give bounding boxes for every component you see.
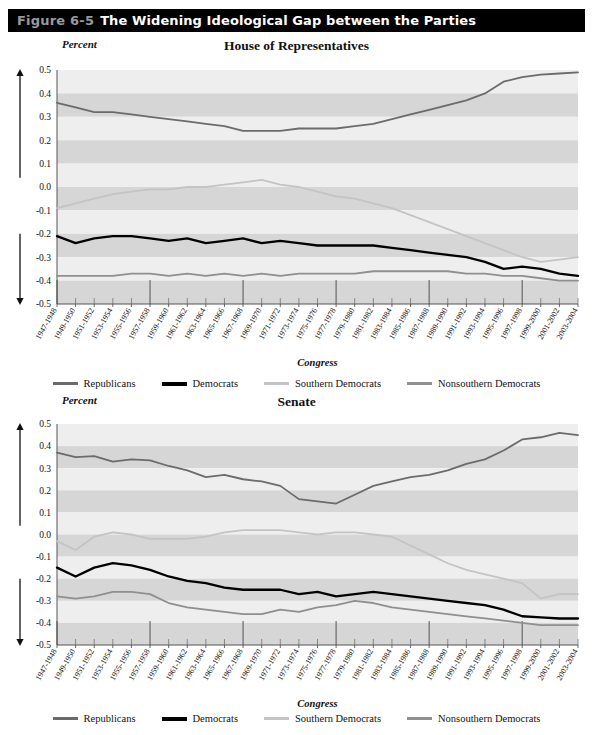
chart-panel-house: House of Representatives Percent 0.50.40… — [0, 36, 593, 396]
y-tick-label: 0.0 — [39, 182, 51, 192]
legend-item-republicans[interactable]: Republicans — [53, 713, 136, 724]
chart-panel-senate: Senate Percent 0.50.40.30.20.10.0-0.1-0.… — [0, 392, 593, 735]
legend-label: Republicans — [84, 378, 136, 389]
legend-item-democrats[interactable]: Democrats — [162, 713, 238, 724]
figure-title-bar: Figure 6-5 The Widening Ideological Gap … — [8, 9, 585, 32]
y-tick-label: 0.4 — [39, 89, 51, 99]
legend-label: Democrats — [193, 713, 238, 724]
y-tick-label: 0.1 — [39, 159, 51, 169]
legend-item-republicans[interactable]: Republicans — [53, 378, 136, 389]
y-tick-label: 0.3 — [39, 112, 51, 122]
y-tick-label: 0.0 — [39, 530, 51, 540]
legend-swatch-icon — [162, 382, 187, 386]
legend-swatch-icon — [264, 382, 289, 385]
legend-item-southern-democrats[interactable]: Southern Democrats — [264, 713, 381, 724]
y-tick-label: -0.5 — [36, 640, 51, 650]
legend-swatch-icon — [407, 717, 432, 720]
legend-item-democrats[interactable]: Democrats — [162, 378, 238, 389]
legend-house: RepublicansDemocratsSouthern DemocratsNo… — [0, 378, 593, 389]
legend-label: Democrats — [193, 378, 238, 389]
y-tick-label: 0.2 — [39, 486, 51, 496]
legend-item-southern-democrats[interactable]: Southern Democrats — [264, 378, 381, 389]
y-tick-label: -0.1 — [36, 552, 51, 562]
y-tick-label: 0.1 — [39, 508, 51, 518]
y-tick-label: -0.4 — [36, 618, 51, 628]
legend-item-nonsouthern-democrats[interactable]: Nonsouthern Democrats — [407, 713, 540, 724]
legend-senate: RepublicansDemocratsSouthern DemocratsNo… — [0, 713, 593, 724]
line-chart-house: 0.50.40.30.20.10.0-0.1-0.2-0.3-0.4-0.519… — [0, 36, 593, 396]
y-tick-label: -0.4 — [36, 276, 51, 286]
legend-swatch-icon — [53, 382, 78, 385]
legend-label: Southern Democrats — [295, 378, 381, 389]
line-chart-senate: 0.50.40.30.20.10.0-0.1-0.2-0.3-0.4-0.519… — [0, 392, 593, 735]
x-axis-title: Congress — [297, 698, 337, 709]
y-tick-label: 0.5 — [39, 65, 51, 75]
y-tick-label: -0.5 — [36, 299, 51, 309]
y-tick-label: 0.3 — [39, 464, 51, 474]
y-tick-label: -0.2 — [36, 229, 51, 239]
legend-label: Nonsouthern Democrats — [438, 713, 540, 724]
y-tick-label: -0.3 — [36, 596, 51, 606]
legend-label: Nonsouthern Democrats — [438, 378, 540, 389]
y-tick-label: -0.1 — [36, 206, 51, 216]
y-tick-label: 0.4 — [39, 441, 51, 451]
y-tick-label: 0.5 — [39, 419, 51, 429]
figure-title: The Widening Ideological Gap between the… — [100, 13, 476, 28]
legend-swatch-icon — [162, 717, 187, 721]
legend-swatch-icon — [407, 382, 432, 385]
y-tick-label: -0.2 — [36, 574, 51, 584]
figure-number: Figure 6-5 — [17, 13, 94, 28]
legend-label: Republicans — [84, 713, 136, 724]
legend-item-nonsouthern-democrats[interactable]: Nonsouthern Democrats — [407, 378, 540, 389]
y-tick-label: 0.2 — [39, 136, 51, 146]
y-tick-label: -0.3 — [36, 253, 51, 263]
legend-swatch-icon — [264, 717, 289, 720]
x-axis-title: Congress — [297, 357, 337, 368]
legend-label: Southern Democrats — [295, 713, 381, 724]
legend-swatch-icon — [53, 717, 78, 720]
